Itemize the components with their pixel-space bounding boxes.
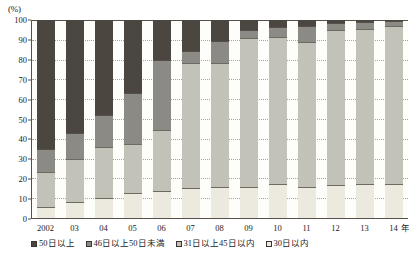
x-axis-tick-label: 04: [95, 221, 113, 235]
bar-column[interactable]: [95, 20, 113, 218]
x-axis-tick-label: 13: [356, 221, 374, 235]
bar-column[interactable]: [385, 20, 403, 218]
legend-item-label: 46日以上50日未満: [94, 239, 165, 248]
bar-segment[interactable]: [66, 159, 84, 203]
legend-item-label: 31日以上45日以内: [184, 239, 255, 248]
x-axis-tick-label: 08: [211, 221, 229, 235]
bar-segment[interactable]: [211, 63, 229, 188]
bar-column[interactable]: [298, 20, 316, 218]
bar-column[interactable]: [327, 20, 345, 218]
legend-swatch-icon: [86, 241, 92, 247]
bar-column[interactable]: [356, 20, 374, 218]
bar-segment[interactable]: [298, 187, 316, 218]
y-axis: 0102030405060708090100: [0, 20, 31, 219]
bar-segment[interactable]: [37, 20, 55, 149]
bar-segment[interactable]: [66, 133, 84, 159]
bar-segment[interactable]: [182, 188, 200, 218]
bar-segment[interactable]: [153, 191, 171, 218]
legend-item[interactable]: 46日以上50日未満: [86, 239, 165, 248]
bar-segment[interactable]: [95, 147, 113, 198]
bar-segment[interactable]: [182, 51, 200, 63]
bar-segment[interactable]: [327, 30, 345, 185]
bar-segment[interactable]: [327, 185, 345, 218]
legend-swatch-icon: [266, 241, 272, 247]
bar-segment[interactable]: [356, 184, 374, 218]
bar-segment[interactable]: [269, 27, 287, 37]
bar-segment[interactable]: [356, 22, 374, 29]
bar-segment[interactable]: [66, 202, 84, 218]
bar-segment[interactable]: [95, 20, 113, 115]
bar-segment[interactable]: [37, 149, 55, 173]
bar-segment[interactable]: [269, 184, 287, 218]
x-axis-tick-label: 06: [153, 221, 171, 235]
bar-column[interactable]: [269, 20, 287, 218]
legend-item[interactable]: 31日以上45日以内: [176, 239, 255, 248]
y-axis-tick-label: 80: [19, 56, 28, 65]
legend-swatch-icon: [31, 241, 37, 247]
bar-segment[interactable]: [269, 20, 287, 27]
x-axis-tick-label: 2002: [37, 221, 55, 235]
x-axis-tick-label: 10: [269, 221, 287, 235]
bar-segment[interactable]: [182, 63, 200, 189]
y-axis-tick-label: 0: [23, 215, 27, 224]
y-axis-tick-label: 40: [19, 135, 28, 144]
legend-swatch-icon: [176, 241, 182, 247]
x-axis: 2002030405060708091011121314: [31, 221, 408, 235]
bar-column[interactable]: [153, 20, 171, 218]
bar-segment[interactable]: [153, 60, 171, 130]
plot-area: [31, 20, 408, 219]
bar-segment[interactable]: [37, 172, 55, 207]
x-axis-tick-label: 12: [327, 221, 345, 235]
bar-column[interactable]: [124, 20, 142, 218]
y-axis-tick-label: 10: [19, 195, 28, 204]
bar-segment[interactable]: [298, 26, 316, 42]
bar-segment[interactable]: [153, 130, 171, 191]
x-axis-unit-label: 年: [401, 221, 410, 235]
bar-column[interactable]: [211, 20, 229, 218]
y-axis-tick-label: 20: [19, 175, 28, 184]
bar-column[interactable]: [37, 20, 55, 218]
bar-column[interactable]: [66, 20, 84, 218]
bar-segment[interactable]: [240, 187, 258, 218]
y-axis-tick-label: 70: [19, 75, 28, 84]
bar-segment[interactable]: [95, 198, 113, 218]
bar-segment[interactable]: [240, 30, 258, 38]
x-axis-tick-label: 11: [298, 221, 316, 235]
bar-segment[interactable]: [385, 26, 403, 184]
bar-column[interactable]: [240, 20, 258, 218]
bar-segment[interactable]: [211, 20, 229, 41]
bar-segment[interactable]: [298, 42, 316, 188]
stacked-bar-chart: (%) 0102030405060708090100 2002030405060…: [0, 0, 417, 254]
y-axis-tick-label: 90: [19, 36, 28, 45]
x-axis-tick-label: 07: [182, 221, 200, 235]
bar-segment[interactable]: [95, 115, 113, 147]
x-axis-tick-label: 14: [385, 221, 403, 235]
bar-column[interactable]: [182, 20, 200, 218]
legend-item[interactable]: 50日以上: [31, 239, 75, 248]
x-axis-tick-label: 03: [66, 221, 84, 235]
bar-segment[interactable]: [37, 207, 55, 218]
bar-segment[interactable]: [211, 41, 229, 63]
bar-segment[interactable]: [66, 20, 84, 133]
bar-segment[interactable]: [240, 38, 258, 187]
bar-segment[interactable]: [327, 23, 345, 30]
bar-segment[interactable]: [211, 187, 229, 218]
y-axis-tick-label: 30: [19, 155, 28, 164]
y-axis-tick-label: 100: [14, 16, 27, 25]
bar-segment[interactable]: [182, 20, 200, 51]
legend-item[interactable]: 30日以内: [266, 239, 310, 248]
bar-segment[interactable]: [240, 20, 258, 30]
legend-item-label: 30日以内: [274, 239, 310, 248]
bar-segment[interactable]: [153, 20, 171, 60]
x-axis-tick-label: 05: [124, 221, 142, 235]
bar-segment[interactable]: [124, 144, 142, 194]
bar-segment[interactable]: [385, 184, 403, 218]
chart-legend: 50日以上46日以上50日未満31日以上45日以内30日以内: [31, 237, 408, 250]
legend-item-label: 50日以上: [39, 239, 75, 248]
bar-segment[interactable]: [269, 37, 287, 185]
bar-segment[interactable]: [124, 20, 142, 93]
y-axis-unit-label: (%): [8, 4, 21, 14]
bar-segment[interactable]: [124, 193, 142, 218]
bar-segment[interactable]: [124, 93, 142, 143]
bar-segment[interactable]: [356, 29, 374, 184]
